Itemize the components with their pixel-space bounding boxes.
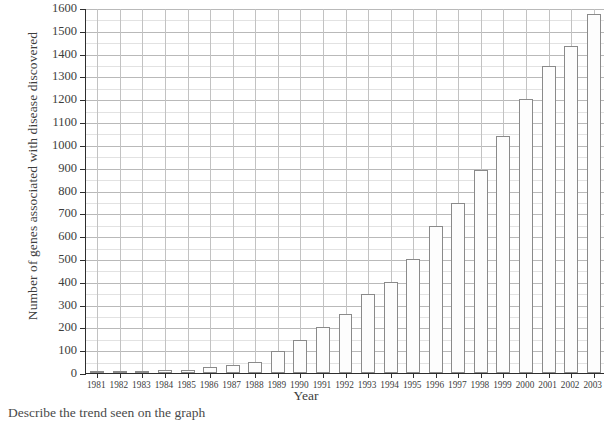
x-axis-tick bbox=[278, 373, 279, 378]
x-axis-tick bbox=[300, 373, 301, 378]
y-axis-tick-label: 200 bbox=[31, 320, 77, 335]
x-axis-tick bbox=[526, 373, 527, 378]
y-axis-tick-label: 1100 bbox=[31, 115, 77, 130]
bar bbox=[271, 351, 285, 373]
gridline-vertical bbox=[255, 9, 256, 373]
bar bbox=[496, 136, 510, 373]
y-axis-tick-label: 600 bbox=[31, 229, 77, 244]
bar bbox=[316, 327, 330, 373]
y-axis-tick-label: 300 bbox=[31, 298, 77, 313]
x-axis-tick bbox=[549, 373, 550, 378]
x-axis-tick bbox=[571, 373, 572, 378]
y-axis-tick bbox=[80, 306, 86, 307]
x-axis-tick bbox=[594, 373, 595, 378]
x-axis-tick bbox=[97, 373, 98, 378]
y-axis-tick-label: 800 bbox=[31, 184, 77, 199]
bar bbox=[451, 203, 465, 373]
bar bbox=[361, 294, 375, 373]
y-axis-tick bbox=[80, 237, 86, 238]
bar bbox=[406, 259, 420, 373]
y-axis-tick bbox=[80, 77, 86, 78]
gridline-vertical bbox=[120, 9, 121, 373]
x-axis-tick bbox=[255, 373, 256, 378]
x-axis-tick bbox=[210, 373, 211, 378]
y-axis-tick bbox=[80, 9, 86, 10]
y-axis-tick-label: 1200 bbox=[31, 92, 77, 107]
y-axis-tick bbox=[80, 374, 86, 375]
y-axis-tick-label: 1400 bbox=[31, 47, 77, 62]
x-axis-tick bbox=[346, 373, 347, 378]
bar bbox=[564, 46, 578, 373]
bar bbox=[519, 99, 533, 373]
bar bbox=[542, 66, 556, 373]
x-axis-tick bbox=[481, 373, 482, 378]
x-axis-tick bbox=[233, 373, 234, 378]
gridline-vertical bbox=[323, 9, 324, 373]
y-axis-tick bbox=[80, 146, 86, 147]
gridline-vertical bbox=[210, 9, 211, 373]
y-axis-tick bbox=[80, 123, 86, 124]
x-axis-tick bbox=[120, 373, 121, 378]
y-axis-tick-label: 1600 bbox=[31, 1, 77, 16]
y-axis-tick bbox=[80, 169, 86, 170]
y-axis-tick-label: 700 bbox=[31, 206, 77, 221]
bar bbox=[474, 170, 488, 373]
bar bbox=[226, 365, 240, 373]
y-axis-tick bbox=[80, 32, 86, 33]
x-axis-tick bbox=[165, 373, 166, 378]
bar bbox=[293, 340, 307, 373]
y-axis-tick bbox=[80, 260, 86, 261]
y-axis-tick-label: 1000 bbox=[31, 138, 77, 153]
y-axis-tick bbox=[80, 55, 86, 56]
x-axis-tick bbox=[503, 373, 504, 378]
x-axis-title: Year bbox=[0, 388, 612, 404]
x-axis-tick bbox=[368, 373, 369, 378]
x-axis-tick bbox=[413, 373, 414, 378]
bar bbox=[248, 362, 262, 373]
gridline-vertical bbox=[142, 9, 143, 373]
plot-area bbox=[85, 9, 604, 374]
x-axis-tick bbox=[142, 373, 143, 378]
y-axis-tick-label: 1500 bbox=[31, 24, 77, 39]
y-axis-tick-label: 500 bbox=[31, 252, 77, 267]
x-axis-tick bbox=[436, 373, 437, 378]
y-axis-tick bbox=[80, 283, 86, 284]
y-axis-tick bbox=[80, 214, 86, 215]
y-axis-tick bbox=[80, 351, 86, 352]
bar bbox=[429, 226, 443, 373]
bar bbox=[339, 314, 353, 373]
x-axis-tick bbox=[188, 373, 189, 378]
y-axis-tick-label: 1300 bbox=[31, 69, 77, 84]
y-axis-tick-label: 900 bbox=[31, 161, 77, 176]
bar bbox=[384, 282, 398, 373]
gridline-vertical bbox=[233, 9, 234, 373]
gridline-vertical bbox=[188, 9, 189, 373]
x-axis-tick bbox=[323, 373, 324, 378]
bar bbox=[587, 14, 601, 373]
gridline-vertical bbox=[300, 9, 301, 373]
gridline-vertical bbox=[165, 9, 166, 373]
y-axis-tick-label: 0 bbox=[31, 366, 77, 381]
x-axis-tick bbox=[391, 373, 392, 378]
gridline-vertical bbox=[278, 9, 279, 373]
y-axis-tick-label: 400 bbox=[31, 275, 77, 290]
figure-caption: Describe the trend seen on the graph bbox=[8, 405, 205, 421]
gridline-vertical bbox=[97, 9, 98, 373]
y-axis-tick bbox=[80, 192, 86, 193]
y-axis-tick bbox=[80, 328, 86, 329]
y-axis-tick bbox=[80, 100, 86, 101]
x-axis-tick bbox=[458, 373, 459, 378]
y-axis-tick-label: 100 bbox=[31, 343, 77, 358]
